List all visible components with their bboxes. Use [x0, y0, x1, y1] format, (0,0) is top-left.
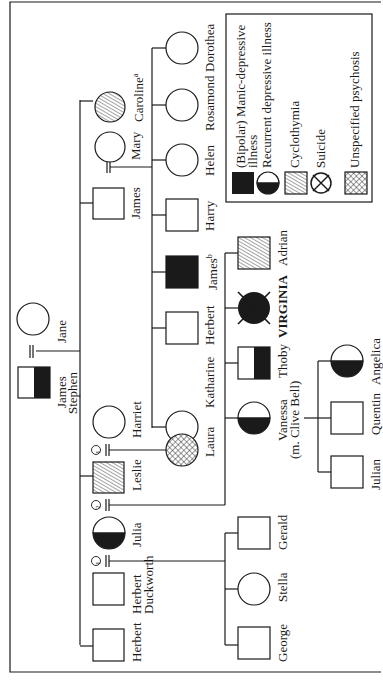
label-james: James: [129, 187, 142, 219]
person-herbert-sibling: [93, 629, 124, 661]
label-jane: Jane: [55, 320, 68, 343]
label-herbert-sibling: Herbert: [130, 622, 143, 662]
person-james: [93, 188, 124, 219]
person-adrian: [238, 237, 270, 269]
label-george: George: [276, 624, 289, 662]
label-virginia: VIRGINIA: [276, 275, 289, 338]
person-james-stephen: [18, 367, 50, 398]
label-leslie: Leslie: [130, 459, 143, 491]
person-jane: [17, 303, 49, 335]
person-quentin: [331, 402, 363, 434]
legend-label-suicide: Suicide: [314, 129, 327, 168]
label-quentin: Quentin: [369, 393, 382, 435]
person-dorothea: [166, 32, 198, 64]
label-laura: Laura: [203, 427, 216, 457]
person-harriet: [93, 406, 125, 438]
label-katharine: Katharine: [203, 357, 216, 408]
label-julia: Julia: [130, 522, 143, 547]
legend-unspecified-psychosis-icon: [345, 172, 367, 194]
person-julia: [93, 517, 125, 549]
label-adrian: Adrian: [276, 230, 289, 266]
person-mary: [95, 132, 125, 162]
marriage-number: 1: [92, 451, 105, 455]
person-herbert-duckworth: [93, 573, 124, 605]
person-virginia: [238, 292, 270, 324]
label-stella: Stella: [276, 572, 289, 602]
label-angelica: Angelica: [369, 338, 382, 385]
label-thoby: Thoby: [276, 344, 289, 378]
label-harriet: Harriet: [130, 401, 143, 438]
person-thoby: [238, 347, 270, 379]
legend-label-manic-depressive-2: illness: [246, 135, 259, 168]
label-caroline: Carolinea: [129, 74, 145, 122]
label-james-stephen-2: Stephen: [66, 372, 79, 414]
label-julian: Julian: [369, 459, 382, 490]
legend-suicide-icon: [311, 173, 331, 193]
person-leslie: [93, 462, 124, 493]
label-gerald: Gerald: [276, 515, 289, 550]
person-caroline: [95, 92, 125, 122]
label-james-b: Jamesb: [203, 254, 219, 290]
legend-recurrent-depressive-icon: [257, 172, 279, 194]
person-angelica: [331, 345, 363, 377]
person-herbert: [166, 312, 198, 344]
legend-manic-depressive-icon: [232, 172, 254, 194]
marriage-number: 2: [92, 506, 105, 510]
label-harry: Harry: [203, 201, 216, 231]
label-vanessa-2: (m. Clive Bell): [288, 381, 301, 459]
marriage-number: 1: [92, 562, 105, 566]
legend-label-cyclothymia: Cyclothymia: [288, 101, 301, 168]
label-rosamond: Rosamond: [203, 75, 216, 131]
legend-label-unspecified-psychosis: Unspecified psychosis: [348, 51, 361, 168]
label-dorothea: Dorothea: [203, 24, 216, 72]
label-helen: Helen: [203, 145, 216, 176]
person-laura: [166, 434, 198, 466]
person-george: [238, 627, 270, 659]
person-harry: [166, 199, 198, 231]
label-mary: Mary: [129, 132, 142, 160]
legend-label-recurrent-depressive: Recurrent depressive illness: [260, 22, 273, 168]
person-julian: [331, 456, 363, 488]
person-stella: [238, 573, 270, 605]
person-rosamond: [166, 89, 198, 121]
label-herbert-duckworth-2: Duckworth: [142, 556, 155, 615]
person-gerald: [238, 517, 270, 549]
legend-cyclothymia-icon: [285, 172, 307, 194]
person-james-b: [166, 256, 198, 288]
person-helen: [166, 144, 198, 176]
person-vanessa: [238, 402, 270, 434]
label-herbert: Herbert: [203, 305, 216, 345]
